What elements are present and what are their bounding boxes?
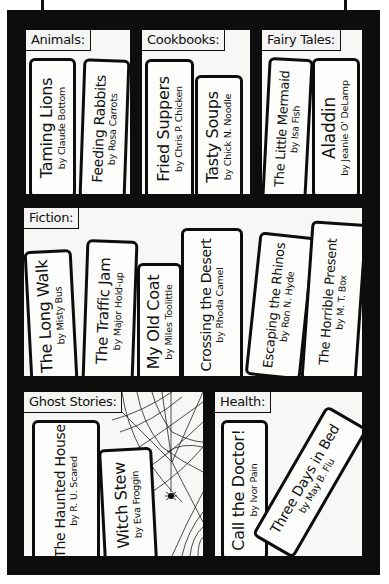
book-title: Crossing the Desert <box>199 239 214 372</box>
book-title: Taming Lions <box>38 78 55 178</box>
shelf-label-animals: Animals: <box>26 30 91 51</box>
book-title: Call the Doctor! <box>230 429 247 550</box>
book-author: by Jeanie O' DeLamp <box>339 80 350 176</box>
book-title: Fried Suppers <box>155 76 172 182</box>
shelf-health: Health: Call the Doctor!by Ivor Pain Thr… <box>215 392 362 556</box>
book-author: by R. U. Scared <box>68 424 79 556</box>
book-the-haunted-house[interactable]: The Haunted Houseby R. U. Scared <box>32 420 100 556</box>
shelf-label-ghost-stories: Ghost Stories: <box>24 392 122 413</box>
book-little-mermaid[interactable]: The Little Mermaidby Isa Fish <box>262 57 314 194</box>
book-author: by Claude Bottom <box>55 78 66 178</box>
book-title: Feeding Rabbits <box>90 75 108 183</box>
book-the-traffic-jam[interactable]: The Traffic Jamby Major Hold-up <box>82 239 139 376</box>
book-my-old-coat[interactable]: My Old Coatby Miles Toolittle <box>137 263 182 376</box>
book-crossing-the-desert[interactable]: Crossing the Desertby Rhoda Camel <box>181 228 243 376</box>
spider-icon <box>165 492 177 500</box>
book-author: by Chick N. Noodle <box>222 91 233 182</box>
shelf-fairy-tales: Fairy Tales: The Little Mermaidby Isa Fi… <box>262 30 362 194</box>
shelf-label-fiction: Fiction: <box>24 208 79 229</box>
shelf-label-fairy-tales: Fairy Tales: <box>262 30 341 51</box>
book-fried-suppers[interactable]: Fried Suppersby Chris P. Chicken <box>145 59 194 194</box>
shelf-animals: Animals: Taming Lionsby Claude Bottom Fe… <box>26 30 130 194</box>
book-author: by Rhoda Camel <box>214 239 225 372</box>
book-aladdin[interactable]: Aladdinby Jeanie O' DeLamp <box>312 58 360 194</box>
book-taming-lions[interactable]: Taming Lionsby Claude Bottom <box>29 58 76 194</box>
shelf-ghost-stories: Ghost Stories: <box>24 392 203 556</box>
book-title: Aladdin <box>321 80 339 176</box>
book-author: by Chris P. Chicken <box>172 76 183 182</box>
book-title: Three Days in Bed <box>268 422 342 536</box>
shelf-cookbooks: Cookbooks: Fried Suppersby Chris P. Chic… <box>142 30 250 194</box>
book-tasty-soups[interactable]: Tasty Soupsby Chick N. Noodle <box>195 75 243 194</box>
shelf-label-cookbooks: Cookbooks: <box>142 30 225 51</box>
shelf-label-health: Health: <box>215 392 271 413</box>
book-title: The Haunted House <box>53 424 68 556</box>
book-author: by Miles Toolittle <box>162 275 173 369</box>
book-feeding-rabbits[interactable]: Feeding Rabbitsby Rosa Carrots <box>79 58 130 194</box>
shelf-fiction: Fiction: The Long Walkby Misty Bus The T… <box>24 208 362 376</box>
book-title: Tasty Soups <box>205 91 222 182</box>
book-title: My Old Coat <box>145 275 162 369</box>
book-witch-stew[interactable]: Witch Stewby Eva Froggin <box>98 447 158 556</box>
book-the-long-walk[interactable]: The Long Walkby Misty Bus <box>24 249 78 376</box>
book-the-horrible-present[interactable]: The Horrible Presentby M. T. Box <box>300 220 362 376</box>
book-three-days-in-bed[interactable]: Three Days in Bedby May B. Flu <box>252 405 362 556</box>
